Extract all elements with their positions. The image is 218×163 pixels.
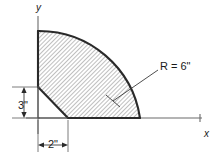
vdim-arrow-down bbox=[21, 112, 26, 118]
vertical-dimension-label: 3" bbox=[18, 100, 28, 111]
hdim-arrow-right bbox=[62, 142, 68, 147]
horizontal-dimension-label: 2" bbox=[48, 139, 58, 150]
engineering-figure: y x R = 6" 3" 2" bbox=[0, 0, 218, 163]
hdim-arrow-left bbox=[38, 142, 44, 147]
y-axis-label: y bbox=[36, 3, 41, 13]
figure-drawing-canvas bbox=[0, 0, 218, 163]
radius-annotation-label: R = 6" bbox=[160, 61, 191, 72]
x-axis-label: x bbox=[204, 129, 209, 139]
vdim-arrow-up bbox=[21, 87, 26, 93]
